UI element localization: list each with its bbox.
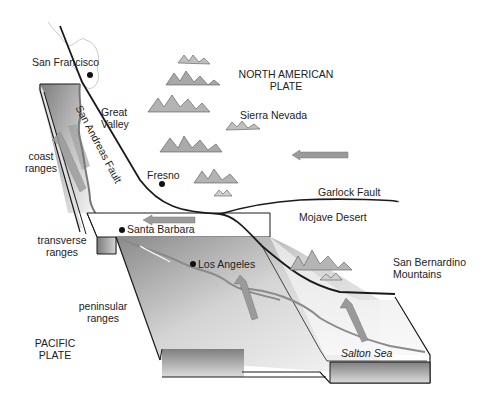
pacific-line2: PLATE [32, 349, 78, 361]
great-valley-line2: Valley [101, 118, 129, 130]
salton-sea-label: Salton Sea [341, 347, 392, 359]
san-francisco-dot [87, 72, 93, 78]
peninsular-ranges-line2: ranges [76, 312, 130, 324]
san-bernardino-line2: Mountains [393, 268, 466, 280]
coast-ranges-label: coast ranges [18, 150, 64, 174]
sierra-nevada-label: Sierra Nevada [240, 109, 307, 121]
coast-ranges-line2: ranges [18, 162, 64, 174]
coast-ranges-line1: coast [18, 150, 64, 162]
transverse-ranges-line1: transverse [32, 234, 92, 246]
peninsular-ranges-label: peninsular ranges [76, 300, 130, 324]
fresno-label: Fresno [147, 169, 180, 181]
transverse-ranges-line2: ranges [32, 246, 92, 258]
transverse-ranges-label: transverse ranges [32, 234, 92, 258]
santa-barbara-label: Santa Barbara [127, 223, 195, 235]
north-american-line1: NORTH AMERICAN [236, 68, 336, 80]
los-angeles-dot [190, 261, 196, 267]
pacific-line1: PACIFIC [32, 337, 78, 349]
north-american-line2: PLATE [236, 80, 336, 92]
san-bernardino-line1: San Bernardino [393, 256, 466, 268]
great-valley-line1: Great [101, 106, 129, 118]
north-american-arrow-icon [292, 150, 348, 160]
peninsular-ranges-line1: peninsular [76, 300, 130, 312]
great-valley-label: Great Valley [101, 106, 129, 130]
north-american-plate-label: NORTH AMERICAN PLATE [236, 68, 336, 92]
san-bernardino-label: San Bernardino Mountains [393, 256, 466, 280]
garlock-fault-label: Garlock Fault [318, 186, 380, 198]
mojave-desert-label: Mojave Desert [299, 211, 367, 223]
pacific-plate-label: PACIFIC PLATE [32, 337, 78, 361]
san-andreas-diagram: San Francisco NORTH AMERICAN PLATE Great… [0, 0, 489, 411]
san-francisco-label: San Francisco [32, 56, 99, 68]
los-angeles-label: Los Angeles [198, 258, 255, 270]
fresno-dot [159, 181, 165, 187]
santa-barbara-dot [119, 227, 125, 233]
